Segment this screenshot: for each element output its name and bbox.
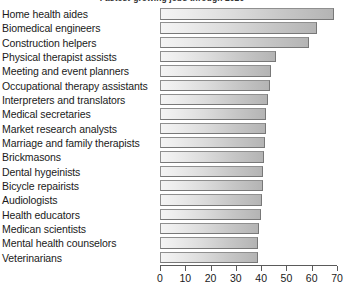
chart-title: Fastest-growing jobs through 2020 [0,0,344,4]
bar-category-label: Home health aides [2,7,88,21]
bar-chart: Fastest-growing jobs through 2020 Home h… [0,0,344,295]
x-axis-tick [312,266,313,271]
bar-row: Meeting and event planners [0,64,344,78]
x-axis-tick-label: 10 [173,272,197,284]
bar-row: Market research analysts [0,122,344,136]
bar-category-label: Market research analysts [2,122,117,136]
bar-category-label: Biomedical engineers [2,21,100,35]
bar-category-label: Brickmasons [2,150,61,164]
bar [160,8,334,20]
bar-track [160,223,337,235]
x-axis-tick-label: 40 [249,272,273,284]
bar-category-label: Dental hygeinists [2,165,80,179]
x-axis-tick [261,266,262,271]
bar-category-label: Bicycle repairists [2,179,79,193]
bar-row: Interpreters and translators [0,93,344,107]
x-axis-tick [236,266,237,271]
bar-category-label: Construction helpers [2,36,96,50]
bar [160,151,264,163]
bar-track [160,194,337,206]
bar-track [160,237,337,249]
x-axis-tick [160,266,161,271]
bar-track [160,180,337,192]
bar-track [160,108,337,120]
plot-area: Home health aidesBiomedical engineersCon… [0,7,344,265]
bar-category-label: Meeting and event planners [2,64,129,78]
bar-track [160,166,337,178]
bar [160,80,270,92]
bar-row: Medical secretaries [0,107,344,121]
bar-row: Health educators [0,208,344,222]
x-axis-tick-label: 30 [224,272,248,284]
bar-track [160,151,337,163]
bar-category-label: Marriage and family therapists [2,136,140,150]
bar-track [160,51,337,63]
bar-row: Bicycle repairists [0,179,344,193]
bar-row: Marriage and family therapists [0,136,344,150]
bar [160,51,276,63]
bar [160,180,263,192]
bar-track [160,209,337,221]
bar [160,223,259,235]
bar [160,123,266,135]
x-axis: 010203040506070 [0,265,344,295]
bar [160,22,317,34]
bar-category-label: Health educators [2,208,80,222]
bar [160,209,261,221]
bar-row: Construction helpers [0,36,344,50]
bar-category-label: Mental health counselors [2,236,116,250]
bar [160,252,258,264]
bar-category-label: Veterinarians [2,251,62,265]
x-axis-line [160,265,337,266]
bar-category-label: Interpreters and translators [2,93,125,107]
bar-category-label: Medican scientists [2,222,86,236]
bar-track [160,8,337,20]
bar [160,137,265,149]
bar [160,94,268,106]
bar-track [160,123,337,135]
x-axis-tick-label: 20 [199,272,223,284]
bar-row: Physical therapist assists [0,50,344,64]
bar [160,65,271,77]
x-axis-tick-label: 0 [148,272,172,284]
bar-track [160,80,337,92]
bar-category-label: Occupational therapy assistants [2,79,148,93]
x-axis-tick [211,266,212,271]
bar-row: Occupational therapy assistants [0,79,344,93]
bar-track [160,65,337,77]
bar [160,166,263,178]
x-axis-tick [185,266,186,271]
bar-track [160,252,337,264]
x-axis-tick-label: 50 [274,272,298,284]
bar [160,108,266,120]
bar-row: Audiologists [0,193,344,207]
x-axis-tick-label: 70 [325,272,344,284]
x-axis-tick-label: 60 [300,272,324,284]
bar [160,194,262,206]
bar-track [160,22,337,34]
bar-track [160,137,337,149]
bar [160,37,309,49]
bar-row: Medican scientists [0,222,344,236]
bar [160,237,258,249]
bar-track [160,94,337,106]
bar-track [160,37,337,49]
bar-row: Veterinarians [0,251,344,265]
x-axis-tick [286,266,287,271]
bar-category-label: Physical therapist assists [2,50,117,64]
bar-row: Home health aides [0,7,344,21]
bar-category-label: Audiologists [2,193,57,207]
bar-row: Dental hygeinists [0,165,344,179]
bar-category-label: Medical secretaries [2,107,91,121]
bar-row: Biomedical engineers [0,21,344,35]
bar-row: Brickmasons [0,150,344,164]
bar-row: Mental health counselors [0,236,344,250]
x-axis-tick [337,266,338,271]
